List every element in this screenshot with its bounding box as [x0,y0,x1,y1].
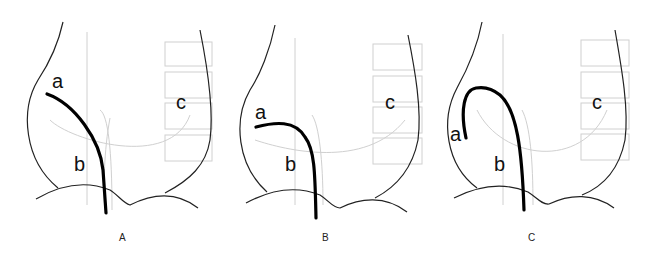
panel-c: a b c C [432,0,649,258]
diagram-b [215,0,432,258]
label-a: a [255,102,266,122]
label-b: b [285,154,296,174]
label-c: c [176,92,186,112]
label-b: b [494,154,505,174]
label-b: b [74,154,85,174]
panel-caption-a: A [119,232,126,243]
panel-caption-c: C [528,232,535,243]
panel-a: a b c A [0,0,217,258]
label-a: a [52,71,63,91]
diagram-c [432,0,649,258]
diagram-a [0,0,217,258]
label-c: c [385,92,395,112]
label-a: a [450,124,461,144]
panel-caption-b: B [322,232,329,243]
panel-b: a b c B [215,0,432,258]
label-c: c [592,92,602,112]
